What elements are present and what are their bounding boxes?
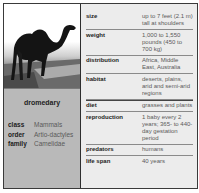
animal-fact-card: dromedary class Mammals order Artio-dact… <box>3 3 198 189</box>
taxonomy-value: Camelidae <box>34 140 76 148</box>
fact-value: 1 baby every 2 years; 365- to 440-day ge… <box>142 114 193 142</box>
fact-row-size: size up to 7 feet (2.1 m) tall at should… <box>86 4 193 30</box>
fact-label: size <box>86 13 142 27</box>
fact-row-diet: diet grasses and plants <box>86 100 193 113</box>
camel-silhouette-icon <box>4 4 80 89</box>
taxonomy-value: Artio-dactyles <box>34 131 76 139</box>
taxonomy-row-class: class Mammals <box>8 121 76 129</box>
camel-photo <box>4 4 80 89</box>
fact-row-reproduction: reproduction 1 baby every 2 years; 365- … <box>86 112 193 145</box>
taxonomy-panel: dromedary class Mammals order Artio-dact… <box>4 89 80 188</box>
fact-value: Africa, Middle East, Australia <box>142 57 193 71</box>
fact-row-life-span: life span 40 years <box>86 156 193 167</box>
fact-value: deserts, plains, arid and semi-arid regi… <box>142 76 193 97</box>
fact-value: 40 years <box>142 158 193 165</box>
fact-value: 1,000 to 1,550 pounds (450 to 700 kg) <box>142 32 193 53</box>
fact-value: humans <box>142 146 193 153</box>
taxonomy-label: family <box>8 140 34 148</box>
taxonomy-row-order: order Artio-dactyles <box>8 131 76 139</box>
fact-value: up to 7 feet (2.1 m) tall at shoulders <box>142 13 193 27</box>
fact-label: weight <box>86 32 142 53</box>
fact-row-habitat: habitat deserts, plains, arid and semi-a… <box>86 74 193 100</box>
taxonomy-value: Mammals <box>34 121 76 129</box>
taxonomy-row-family: family Camelidae <box>8 140 76 148</box>
fact-label: habitat <box>86 76 142 97</box>
animal-summary-panel: dromedary class Mammals order Artio-dact… <box>4 4 81 188</box>
fact-value: grasses and plants <box>142 102 193 109</box>
taxonomy-label: order <box>8 131 34 139</box>
fact-row-distribution: distribution Africa, Middle East, Austra… <box>86 56 193 75</box>
fact-label: life span <box>86 158 142 165</box>
fact-label: distribution <box>86 57 142 71</box>
fact-label: predators <box>86 146 142 153</box>
animal-name: dromedary <box>8 99 76 106</box>
fact-label: diet <box>86 102 142 109</box>
facts-table: size up to 7 feet (2.1 m) tall at should… <box>81 4 197 188</box>
taxonomy-label: class <box>8 121 34 129</box>
fact-label: reproduction <box>86 114 142 142</box>
fact-row-predators: predators humans <box>86 145 193 157</box>
fact-row-weight: weight 1,000 to 1,550 pounds (450 to 700… <box>86 30 193 56</box>
